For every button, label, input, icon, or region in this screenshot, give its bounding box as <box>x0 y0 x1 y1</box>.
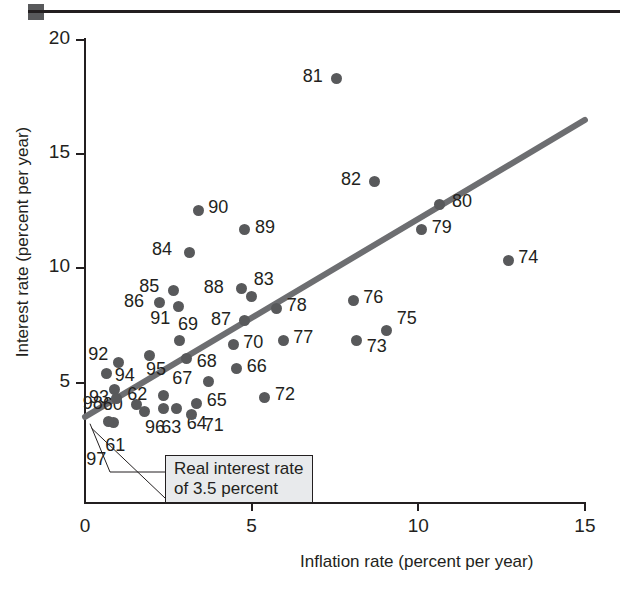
scatter-point-label: 97 <box>86 449 106 470</box>
figure-top-rule <box>28 10 620 13</box>
scatter-point <box>139 406 150 417</box>
scatter-point <box>193 205 204 216</box>
scatter-point-label: 78 <box>287 295 307 316</box>
scatter-point <box>158 403 169 414</box>
scatter-point-label: 95 <box>146 359 166 380</box>
scatter-point <box>203 376 214 387</box>
scatter-point-label: 68 <box>197 351 217 372</box>
scatter-point-label: 96 <box>145 417 165 438</box>
scatter-point-label: 83 <box>254 269 274 290</box>
callout-line-1: Real interest rate <box>174 459 312 479</box>
y-tick <box>76 382 85 384</box>
x-tick-label: 0 <box>55 515 115 537</box>
scatter-point <box>416 224 427 235</box>
trendline-svg <box>0 0 630 598</box>
scatter-point <box>434 199 445 210</box>
scatter-point-label: 91 <box>150 308 170 329</box>
scatter-point <box>103 416 114 427</box>
scatter-point-label: 90 <box>208 197 228 218</box>
scatter-point <box>381 325 392 336</box>
scatter-point-label: 72 <box>275 384 295 405</box>
scatter-point <box>271 303 282 314</box>
scatter-point <box>171 403 182 414</box>
y-tick <box>76 39 85 41</box>
callout-line-2: of 3.5 percent <box>174 479 312 499</box>
scatter-point <box>236 283 247 294</box>
scatter-point-label: 61 <box>105 435 125 456</box>
scatter-point <box>239 315 250 326</box>
scatter-point-label: 71 <box>204 415 224 436</box>
scatter-point <box>181 353 192 364</box>
x-axis-line <box>84 502 586 504</box>
scatter-point <box>239 224 250 235</box>
scatter-point <box>369 176 380 187</box>
scatter-point-label: 74 <box>518 247 538 268</box>
scatter-point <box>173 301 184 312</box>
x-tick <box>251 502 253 511</box>
scatter-point <box>246 291 257 302</box>
y-tick <box>76 267 85 269</box>
scatter-point <box>503 255 514 266</box>
scatter-point <box>231 363 242 374</box>
y-axis-title: Interest rate (percent per year) <box>13 7 33 477</box>
scatter-point <box>331 73 342 84</box>
scatter-point-label: 76 <box>363 287 383 308</box>
x-tick <box>417 502 419 511</box>
scatter-point-label: 75 <box>397 308 417 329</box>
scatter-point-label: 81 <box>303 66 323 87</box>
scatter-point <box>228 339 239 350</box>
scatter-point-label: 77 <box>293 327 313 348</box>
scatter-point <box>278 335 289 346</box>
scatter-point-label: 89 <box>255 217 275 238</box>
scatter-point-label: 87 <box>211 309 231 330</box>
scatter-point <box>174 335 185 346</box>
scatter-point <box>348 295 359 306</box>
scatter-point-label: 73 <box>367 336 387 357</box>
y-tick <box>76 153 85 155</box>
scatter-point-label: 65 <box>207 390 227 411</box>
scatter-point <box>168 285 179 296</box>
scatter-point-label: 94 <box>115 365 135 386</box>
scatter-point <box>184 247 195 258</box>
scatter-point-label: 80 <box>452 191 472 212</box>
scatter-point-label: 66 <box>247 356 267 377</box>
scatter-point <box>351 335 362 346</box>
figure-scatter-inflation-vs-interest: 5101520 051015 Interest rate (percent pe… <box>0 0 630 598</box>
x-tick <box>584 502 586 511</box>
scatter-point-label: 70 <box>243 332 263 353</box>
annotation-callout: Real interest rate of 3.5 percent <box>165 455 313 503</box>
y-axis-line <box>84 38 86 504</box>
scatter-point <box>259 392 270 403</box>
scatter-point-label: 82 <box>341 169 361 190</box>
x-axis-title: Inflation rate (percent per year) <box>300 552 630 572</box>
scatter-point <box>101 368 112 379</box>
scatter-point-label: 86 <box>124 291 144 312</box>
scatter-point <box>191 398 202 409</box>
scatter-point-label: 92 <box>88 344 108 365</box>
x-tick-label: 5 <box>222 515 282 537</box>
scatter-point-label: 98 <box>83 393 103 414</box>
scatter-point-label: 84 <box>152 239 172 260</box>
scatter-point-label: 88 <box>204 277 224 298</box>
x-tick-label: 15 <box>555 515 615 537</box>
scatter-point-label: 69 <box>178 314 198 335</box>
scatter-point-label: 67 <box>172 368 192 389</box>
scatter-point <box>158 390 169 401</box>
scatter-point <box>154 297 165 308</box>
scatter-point-label: 62 <box>127 384 147 405</box>
scatter-point-label: 79 <box>432 217 452 238</box>
x-tick-label: 10 <box>388 515 448 537</box>
